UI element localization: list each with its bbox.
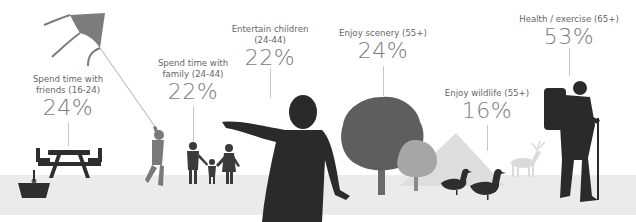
leader-line bbox=[487, 125, 488, 151]
stat-value: 24% bbox=[18, 96, 118, 120]
stat-friends: Spend time with friends (16-24) 24% bbox=[18, 74, 118, 120]
boy-silhouette-icon bbox=[222, 95, 350, 222]
family-holding-hands-icon bbox=[187, 142, 240, 184]
stat-value: 22% bbox=[220, 46, 320, 70]
stat-value: 16% bbox=[437, 99, 537, 123]
picnic-basket-icon bbox=[18, 170, 50, 198]
stat-value: 22% bbox=[143, 80, 243, 104]
hiker-icon bbox=[544, 81, 600, 202]
stat-value: 53% bbox=[514, 25, 624, 49]
leader-line bbox=[270, 68, 271, 98]
stat-health: Health / exercise (65+) 53% bbox=[514, 14, 624, 49]
leader-line bbox=[193, 106, 194, 142]
stat-scenery: Enjoy scenery (55+) 24% bbox=[333, 28, 433, 63]
leader-line bbox=[68, 122, 69, 146]
child-flying-kite-icon bbox=[145, 126, 164, 186]
picnic-table-icon bbox=[36, 148, 102, 178]
stat-label: Spend time with bbox=[18, 74, 118, 85]
stat-children: Entertain children (24-44) 22% bbox=[220, 24, 320, 70]
infographic: Spend time with friends (16-24) 24% Spen… bbox=[0, 0, 636, 222]
stat-value: 24% bbox=[333, 39, 433, 63]
stat-label: Entertain children bbox=[220, 24, 320, 35]
leader-line bbox=[383, 66, 384, 96]
deer-icon bbox=[511, 141, 545, 177]
leader-line bbox=[569, 48, 570, 76]
stat-wildlife: Enjoy wildlife (55+) 16% bbox=[437, 88, 537, 123]
